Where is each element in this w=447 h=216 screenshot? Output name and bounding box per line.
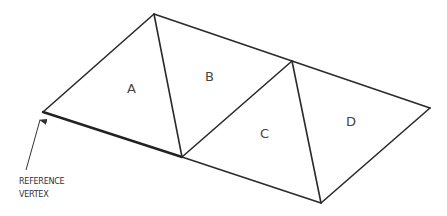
edge-v2-v3 xyxy=(182,61,292,157)
edge-v3-v4 xyxy=(292,61,321,203)
annotation-vertex: VERTEX xyxy=(19,189,49,199)
edge-v3-v5 xyxy=(292,61,430,108)
edge-v4-v5 xyxy=(321,108,430,203)
triangle-label-a: A xyxy=(127,81,136,96)
edge-v1-v3 xyxy=(154,14,292,61)
edge-v0-v1 xyxy=(43,14,154,112)
edge-v1-v2 xyxy=(154,14,182,157)
reference-vertex-arrow xyxy=(26,120,40,170)
triangle-label-b: B xyxy=(205,69,214,84)
triangle-label-d: D xyxy=(346,114,356,129)
triangle-strip-diagram: A B C D REFERENCE VERTEX xyxy=(0,0,447,216)
edge-v0-v2 xyxy=(43,112,182,157)
edge-v2-v4 xyxy=(182,157,321,203)
annotation-reference: REFERENCE xyxy=(19,176,65,186)
triangle-label-c: C xyxy=(260,126,269,141)
